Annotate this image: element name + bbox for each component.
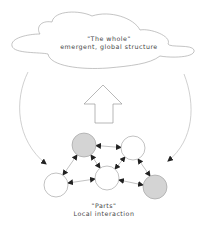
node-agent [44, 173, 68, 197]
whole-subtitle: emergent, global structure [54, 43, 164, 51]
node-agent [72, 133, 96, 157]
whole-title: "The whole" [54, 35, 164, 43]
parts-title: "Parts" [54, 202, 154, 210]
upward-arrow-icon [84, 85, 122, 123]
node-agent [143, 175, 167, 199]
node-agent [95, 166, 119, 190]
whole-label: "The whole" emergent, global structure [54, 35, 164, 51]
parts-subtitle: Local interaction [54, 210, 154, 218]
left-curved-arrow [20, 72, 46, 164]
right-curved-arrow [168, 74, 191, 161]
node-agent [121, 136, 145, 160]
parts-label: "Parts" Local interaction [54, 202, 154, 218]
